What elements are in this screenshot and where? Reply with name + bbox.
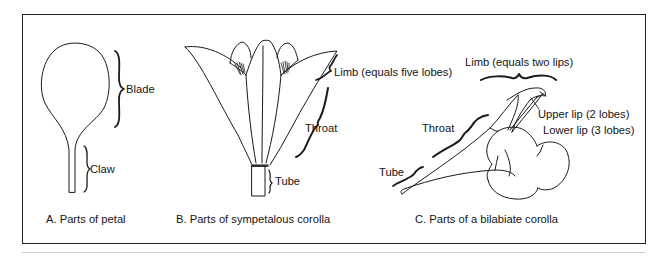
limb-two-lips-brace-icon <box>481 74 556 80</box>
label-tube-c: Tube <box>379 167 404 178</box>
bilabiate-corolla-drawing <box>401 88 569 199</box>
label-throat-b: Throat <box>305 123 337 134</box>
label-claw: Claw <box>90 164 115 175</box>
label-limb-five-lobes: Limb (equals five lobes) <box>334 67 452 78</box>
caption-b: B. Parts of sympetalous corolla <box>176 214 330 225</box>
sympetalous-corolla-drawing <box>185 40 337 196</box>
caption-a: A. Parts of petal <box>46 214 126 225</box>
blade-brace-icon <box>115 51 124 127</box>
label-limb-two-lips: Limb (equals two lips) <box>465 57 573 68</box>
tube-brace-icon <box>269 170 272 193</box>
label-throat-c: Throat <box>422 123 454 134</box>
label-upper-lip: Upper lip (2 lobes) <box>538 109 629 120</box>
caption-c: C. Parts of a bilabiate corolla <box>415 214 558 225</box>
label-tube-b: Tube <box>275 176 300 187</box>
label-lower-lip: Lower lip (3 lobes) <box>543 125 634 136</box>
label-blade: Blade <box>126 84 155 95</box>
